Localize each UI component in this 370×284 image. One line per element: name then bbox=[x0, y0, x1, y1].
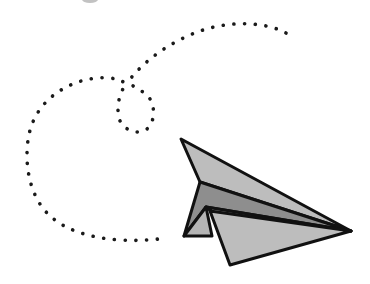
paper-airplane-icon bbox=[181, 139, 351, 265]
illustration-canvas bbox=[0, 0, 370, 284]
paper-airplane-illustration bbox=[0, 0, 370, 284]
